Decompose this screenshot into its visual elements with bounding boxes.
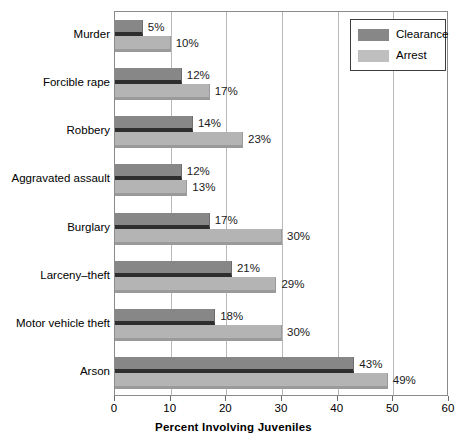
bar-value-label-clearance-6: 18%	[220, 311, 243, 323]
juvenile-involvement-bar-chart: 5%10%12%17%14%23%12%13%17%30%21%29%18%30…	[0, 0, 467, 444]
x-tick-40	[337, 396, 338, 401]
bar-value-label-clearance-2: 14%	[198, 118, 221, 130]
x-tick-label-0: 0	[94, 403, 134, 415]
legend-swatch-arrest	[358, 50, 389, 62]
bar-value-label-arrest-5: 29%	[281, 279, 304, 291]
bar-clearance-6	[115, 309, 215, 325]
x-tick-label-30: 30	[261, 403, 301, 415]
bar-value-label-clearance-3: 12%	[187, 166, 210, 178]
chart-legend: Clearance Arrest	[350, 19, 446, 71]
bar-clearance-1	[115, 68, 182, 84]
x-tick-label-10: 10	[150, 403, 190, 415]
category-label-2: Robbery	[67, 125, 110, 137]
x-tick-30	[281, 396, 282, 401]
x-tick-label-50: 50	[372, 403, 412, 415]
x-axis-title: Percent Involving Juveniles	[0, 421, 467, 433]
bar-clearance-5	[115, 261, 232, 277]
x-tick-label-20: 20	[205, 403, 245, 415]
legend-swatch-clearance	[358, 29, 389, 41]
legend-label-clearance: Clearance	[396, 29, 448, 41]
x-tick-0	[114, 396, 115, 401]
gridline-40	[338, 12, 339, 395]
category-label-4: Burglary	[67, 222, 110, 234]
category-label-3: Aggravated assault	[12, 173, 110, 185]
category-label-5: Larceny–theft	[40, 270, 110, 282]
bar-value-label-clearance-1: 12%	[187, 70, 210, 82]
bar-value-label-arrest-2: 23%	[248, 134, 271, 146]
bar-value-label-arrest-1: 17%	[215, 86, 238, 98]
gridline-30	[282, 12, 283, 395]
bar-value-label-arrest-0: 10%	[176, 38, 199, 50]
bar-value-label-clearance-5: 21%	[237, 263, 260, 275]
bar-arrest-3	[115, 180, 187, 196]
category-label-0: Murder	[74, 29, 110, 41]
bar-value-label-arrest-7: 49%	[393, 375, 416, 387]
bar-arrest-6	[115, 325, 282, 341]
bar-value-label-arrest-6: 30%	[287, 327, 310, 339]
legend-entry-clearance: Clearance	[358, 28, 448, 41]
bar-arrest-5	[115, 277, 276, 293]
bar-value-label-clearance-0: 5%	[148, 22, 165, 34]
category-label-7: Arson	[80, 366, 110, 378]
bar-clearance-2	[115, 116, 193, 132]
bar-clearance-0	[115, 20, 143, 36]
bar-clearance-4	[115, 213, 210, 229]
bar-value-label-clearance-4: 17%	[215, 215, 238, 227]
bar-clearance-7	[115, 357, 354, 373]
x-tick-10	[170, 396, 171, 401]
x-tick-20	[225, 396, 226, 401]
legend-entry-arrest: Arrest	[358, 49, 427, 62]
bar-value-label-arrest-3: 13%	[192, 182, 215, 194]
bar-arrest-1	[115, 84, 210, 100]
bar-value-label-arrest-4: 30%	[287, 231, 310, 243]
bar-arrest-7	[115, 373, 388, 389]
legend-label-arrest: Arrest	[396, 50, 427, 62]
category-label-6: Motor vehicle theft	[16, 318, 110, 330]
bar-clearance-3	[115, 164, 182, 180]
bar-arrest-0	[115, 36, 171, 52]
bar-arrest-2	[115, 132, 243, 148]
bar-arrest-4	[115, 229, 282, 245]
bar-value-label-clearance-7: 43%	[359, 359, 382, 371]
x-tick-label-60: 60	[428, 403, 467, 415]
x-tick-label-40: 40	[317, 403, 357, 415]
x-tick-60	[448, 396, 449, 401]
category-label-1: Forcible rape	[43, 77, 110, 89]
x-tick-50	[392, 396, 393, 401]
